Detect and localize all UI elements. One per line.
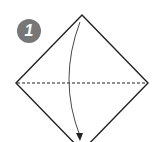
- step-number-badge: 1: [17, 19, 41, 43]
- origami-diagram: 1: [0, 0, 155, 142]
- step-number: 1: [25, 22, 34, 40]
